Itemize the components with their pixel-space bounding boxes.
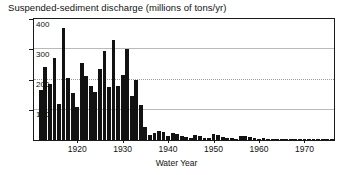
bar xyxy=(298,139,302,140)
bar xyxy=(162,132,166,140)
bar xyxy=(330,139,334,140)
x-tick-label-1970: 1970 xyxy=(295,144,314,154)
bar xyxy=(148,135,152,140)
bar xyxy=(321,139,325,140)
bar xyxy=(193,135,197,140)
bar xyxy=(125,49,129,140)
x-tick-label-1920: 1920 xyxy=(68,144,87,154)
bar xyxy=(189,138,193,140)
bar xyxy=(225,138,229,140)
bar xyxy=(53,58,57,140)
bar xyxy=(66,78,70,140)
bar xyxy=(262,138,266,140)
bar xyxy=(203,138,207,140)
bar xyxy=(325,139,329,140)
bar xyxy=(271,139,275,140)
x-tick-label-1930: 1930 xyxy=(113,144,132,154)
bar xyxy=(198,136,202,140)
x-tick-1950 xyxy=(214,140,215,143)
bar xyxy=(216,135,220,140)
bar xyxy=(171,133,175,140)
bar xyxy=(57,104,61,140)
bar xyxy=(312,139,316,140)
chart-figure: Suspended-sediment discharge (millions o… xyxy=(0,0,353,175)
bar xyxy=(175,134,179,140)
y-tick-label-400: 400 xyxy=(36,20,49,29)
bar xyxy=(75,107,79,140)
plot-area xyxy=(34,19,334,140)
bar xyxy=(253,138,257,140)
x-tick-label-1960: 1960 xyxy=(250,144,269,154)
bar xyxy=(93,92,97,140)
x-tick-label-1940: 1940 xyxy=(159,144,178,154)
bar xyxy=(184,137,188,140)
bar xyxy=(243,136,247,140)
x-tick-1930 xyxy=(123,140,124,143)
bar xyxy=(121,75,125,140)
bar xyxy=(43,67,47,140)
bar xyxy=(153,133,157,140)
bar xyxy=(112,40,116,140)
bar xyxy=(139,105,143,140)
bar xyxy=(130,96,134,140)
chart-title: Suspended-sediment discharge (millions o… xyxy=(8,2,226,14)
bar xyxy=(293,139,297,140)
bar xyxy=(116,86,120,140)
bar xyxy=(221,137,225,140)
bar xyxy=(103,51,107,140)
bar xyxy=(71,93,75,140)
bar xyxy=(134,80,138,141)
bar xyxy=(284,139,288,140)
bar xyxy=(275,139,279,140)
bar xyxy=(89,86,93,140)
y-tick-label-200: 200 xyxy=(36,80,49,89)
bar xyxy=(280,139,284,140)
bar xyxy=(234,139,238,141)
bar xyxy=(84,76,88,140)
bar xyxy=(316,139,320,140)
x-axis-title: Water Year xyxy=(0,158,353,168)
y-tick-100 xyxy=(29,110,33,111)
bar xyxy=(230,138,234,140)
bar xyxy=(266,139,270,140)
bar xyxy=(248,137,252,140)
x-tick-label-1950: 1950 xyxy=(204,144,223,154)
y-tick-400 xyxy=(29,19,33,20)
x-tick-1970 xyxy=(304,140,305,143)
bar xyxy=(107,87,111,140)
bar xyxy=(157,131,161,140)
bar xyxy=(98,69,102,140)
bar xyxy=(289,139,293,140)
y-tick-label-300: 300 xyxy=(36,50,49,59)
y-tick-label-100: 100 xyxy=(36,110,49,119)
bar xyxy=(143,127,147,140)
x-tick-1940 xyxy=(168,140,169,143)
plot-frame xyxy=(33,18,335,141)
y-tick-200 xyxy=(29,80,33,81)
x-tick-1960 xyxy=(259,140,260,143)
gridline-300 xyxy=(34,48,334,49)
bar xyxy=(80,63,84,140)
y-tick-300 xyxy=(29,49,33,50)
bar xyxy=(239,136,243,140)
x-tick-1920 xyxy=(77,140,78,143)
bar xyxy=(180,136,184,140)
bar xyxy=(62,28,66,140)
bar xyxy=(307,139,311,140)
bar xyxy=(207,138,211,140)
